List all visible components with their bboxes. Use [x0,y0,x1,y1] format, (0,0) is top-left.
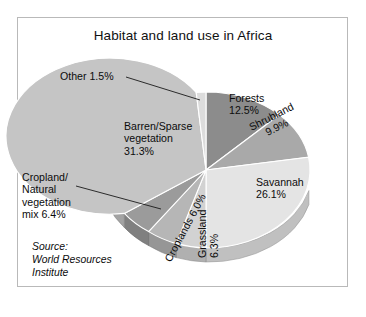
slice-label-other: Other 1.5% [60,70,114,82]
slice-savannah[interactable] [206,157,310,248]
source-note: Source: World Resources Institute [32,240,112,279]
slice-label-forests: Forests 12.5% [229,92,264,117]
slice-label-barren-sparse-vegetation: Barren/Sparse vegetation 31.3% [124,120,192,157]
slice-label-savannah: Savannah 26.1% [256,176,304,201]
chart-figure: Habitat and land use in Africa [0,0,366,317]
slice-label-cropland-natural-mix: Cropland/ Natural vegetation mix 6.4% [22,171,71,221]
slice-label-grassland: Grassland 6.3% [196,210,221,258]
